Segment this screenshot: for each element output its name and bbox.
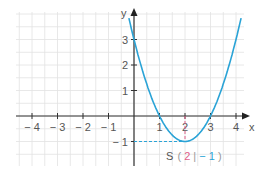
x-axis-arrow-icon (242, 113, 250, 120)
x-tick-label: 1 (156, 121, 162, 133)
y-tick-label: 3 (122, 34, 128, 46)
vertex-x: 2 (184, 150, 190, 162)
vertex-prefix: S (166, 150, 173, 162)
x-tick-label: − 1 (101, 121, 117, 133)
svg-text:S ( 2 |: S ( 2 | − 1 ) (166, 150, 222, 162)
x-tick-label: − 3 (50, 121, 66, 133)
x-tick-label: − 4 (24, 121, 40, 133)
y-axis-arrow-icon (131, 8, 138, 16)
x-tick-label: 4 (233, 121, 239, 133)
y-tick-label: 2 (122, 59, 128, 71)
parabola-graph: x y − 4− 3− 2− 11234321− 1 S ( 2 | − 1 ) (0, 0, 262, 172)
y-tick-label: − 1 (112, 136, 128, 148)
y-axis-label: y (121, 7, 127, 19)
vertex-y: − 1 (199, 150, 215, 162)
y-tick-label: 1 (122, 85, 128, 97)
x-tick-label: 3 (207, 121, 213, 133)
axes: x y (16, 7, 255, 166)
x-axis-label: x (249, 121, 255, 133)
vertex-label: S ( 2 | − 1 ) (166, 150, 222, 162)
grid (16, 12, 244, 166)
x-tick-label: − 2 (75, 121, 91, 133)
